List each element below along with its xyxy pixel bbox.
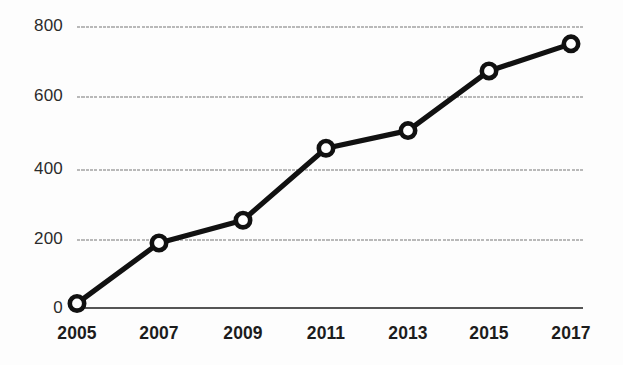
y-axis-tick-labels: 800 600 400 200 0 [34, 16, 63, 317]
line-chart: 800 600 400 200 0 2005 2007 2009 2011 20… [0, 0, 623, 365]
data-point-2015 [482, 64, 496, 78]
y-tick-label-0: 0 [53, 298, 63, 317]
data-point-2017 [564, 37, 578, 51]
x-axis-tick-labels: 2005 2007 2009 2011 2013 2015 2017 [57, 323, 590, 343]
gridlines [77, 27, 583, 240]
data-point-2005 [70, 296, 84, 310]
x-tick-label-2007: 2007 [139, 323, 178, 343]
x-tick-label-2009: 2009 [223, 323, 262, 343]
x-tick-label-2013: 2013 [388, 323, 427, 343]
y-tick-label-600: 600 [34, 86, 63, 105]
data-point-2007 [152, 236, 166, 250]
data-point-2009 [236, 213, 250, 227]
data-series [70, 37, 578, 311]
data-point-2011 [319, 141, 333, 155]
y-tick-label-200: 200 [34, 229, 63, 248]
chart-canvas: 800 600 400 200 0 2005 2007 2009 2011 20… [0, 0, 623, 365]
series-markers [70, 37, 578, 311]
x-tick-label-2017: 2017 [551, 323, 590, 343]
y-tick-label-400: 400 [34, 159, 63, 178]
series-line [77, 44, 571, 304]
x-tick-label-2011: 2011 [307, 323, 346, 343]
y-tick-label-800: 800 [34, 16, 63, 35]
x-tick-label-2005: 2005 [57, 323, 96, 343]
x-tick-label-2015: 2015 [469, 323, 508, 343]
data-point-2013 [401, 123, 415, 137]
